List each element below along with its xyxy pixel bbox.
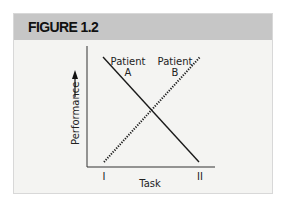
series-patient-b-line <box>104 57 200 162</box>
x-tick-2: II <box>197 171 203 182</box>
patient-b-letter: B <box>172 67 179 78</box>
patient-a-letter: A <box>125 67 132 78</box>
patient-b-label: Patient <box>158 56 193 67</box>
arrow-head-icon <box>72 70 78 79</box>
x-tick-1: I <box>103 171 106 182</box>
chart: Patient A Patient B I II Task Performanc… <box>0 0 288 208</box>
x-axis-label: Task <box>138 178 161 189</box>
patient-a-label: Patient <box>111 56 146 67</box>
